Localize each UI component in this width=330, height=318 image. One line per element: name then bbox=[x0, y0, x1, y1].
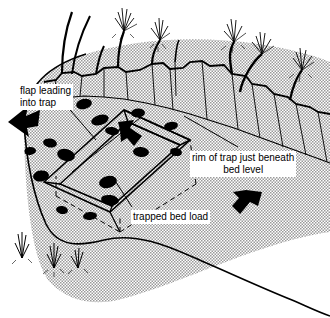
ground-block bbox=[24, 39, 330, 316]
grass-tuft-icon bbox=[224, 19, 246, 42]
tuft-base-dash-icon bbox=[12, 259, 32, 264]
figure-canvas: flap leading into trap rim of trap just … bbox=[0, 0, 330, 318]
grass-tuft-icon bbox=[151, 18, 170, 40]
label-rim-line1: rim of trap just beneath bbox=[192, 152, 294, 164]
label-rim-line2: bed level bbox=[192, 164, 294, 176]
label-trapped-bed-load: trapped bed load bbox=[131, 210, 210, 224]
grass-tuft-icon bbox=[115, 8, 137, 31]
label-rim-of-trap: rim of trap just beneath bed level bbox=[190, 151, 296, 177]
label-flap-leading-into-trap: flap leading into trap bbox=[18, 84, 73, 110]
label-flap-line1: flap leading bbox=[20, 85, 71, 97]
label-trapped-line1: trapped bed load bbox=[133, 211, 208, 223]
grass-tuft-icon bbox=[15, 232, 29, 258]
label-flap-line2: into trap bbox=[20, 97, 71, 109]
